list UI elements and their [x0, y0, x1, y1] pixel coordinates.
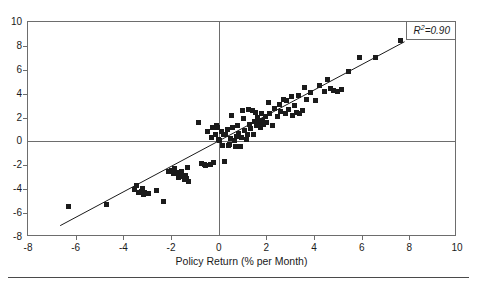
plot-area: -8-6-4-20246810 -8-6-4-20246810 R2=0.90 — [27, 21, 456, 236]
x-axis-tick — [266, 235, 267, 240]
scatter-point — [300, 108, 305, 113]
x-axis-tick-label: -8 — [24, 243, 33, 253]
scatter-point — [220, 143, 225, 148]
y-axis-tick-label: -2 — [13, 160, 22, 170]
scatter-point — [154, 188, 159, 193]
scatter-point — [346, 69, 351, 74]
scatter-point — [225, 127, 230, 132]
y-axis-tick-label: -6 — [13, 208, 22, 218]
x-axis-tick-label: -4 — [119, 243, 128, 253]
y-axis-tick — [23, 118, 28, 119]
scatter-point — [235, 123, 240, 128]
x-axis-tick-label: -6 — [71, 243, 80, 253]
scatter-point — [292, 103, 297, 108]
scatter-point — [229, 113, 234, 118]
y-axis-tick-label: -4 — [13, 184, 22, 194]
y-axis-tick — [23, 46, 28, 47]
scatter-point — [264, 120, 269, 125]
x-axis-title: Policy Return (% per Month) — [27, 255, 456, 267]
scatter-point — [244, 137, 249, 142]
scatter-point — [161, 199, 166, 204]
y-axis-tick — [23, 213, 28, 214]
x-axis-tick-label: 6 — [359, 243, 365, 253]
scatter-point — [289, 94, 294, 99]
y-axis-tick-label: 8 — [16, 41, 22, 51]
scatter-point — [267, 111, 272, 116]
scatter-point — [302, 85, 307, 90]
x-axis-tick — [409, 235, 410, 240]
y-axis-tick-label: 10 — [11, 17, 22, 27]
y-axis-tick-label: 2 — [16, 113, 22, 123]
scatter-point — [313, 98, 318, 103]
figure-root: -8-6-4-20246810 -8-6-4-20246810 R2=0.90 … — [0, 0, 477, 285]
x-axis-tick-label: -2 — [167, 243, 176, 253]
scatter-point — [196, 120, 201, 125]
scatter-point — [253, 110, 258, 115]
x-axis-tick — [362, 235, 363, 240]
scatter-point — [373, 55, 378, 60]
x-axis-tick — [171, 235, 172, 240]
scatter-point — [270, 123, 275, 128]
x-axis-tick — [76, 235, 77, 240]
scatter-point — [251, 132, 256, 137]
scatter-point — [317, 83, 322, 88]
scatter-point — [211, 160, 216, 165]
y-axis-tick — [23, 189, 28, 190]
scatter-point — [304, 97, 309, 102]
x-axis-tick-label: 8 — [407, 243, 413, 253]
scatter-point — [325, 77, 330, 82]
scatter-point — [186, 179, 191, 184]
clipped-caption — [0, 0, 477, 10]
scatter-point — [322, 89, 327, 94]
y-axis-tick — [23, 94, 28, 95]
scatter-point — [245, 132, 250, 137]
scatter-point — [104, 202, 109, 207]
scatter-point — [241, 116, 246, 121]
scatter-point — [222, 159, 227, 164]
y-axis-tick-label: 0 — [16, 136, 22, 146]
y-axis-tick — [23, 70, 28, 71]
scatter-point — [248, 126, 253, 131]
x-axis-tick-label: 10 — [451, 243, 462, 253]
y-axis-tick-label: 4 — [16, 89, 22, 99]
scatter-point — [308, 90, 313, 95]
y-axis-tick — [23, 165, 28, 166]
r-squared-annotation: R2=0.90 — [406, 22, 455, 40]
footer-divider — [8, 277, 469, 278]
x-axis-tick-label: 0 — [216, 243, 222, 253]
x-axis-tick — [123, 235, 124, 240]
y-axis-tick-label: 6 — [16, 65, 22, 75]
x-axis-tick — [314, 235, 315, 240]
scatter-point — [277, 102, 282, 107]
scatter-point — [266, 100, 271, 105]
scatter-point — [66, 204, 71, 209]
scatter-point — [398, 38, 403, 43]
y-axis-tick-label: -8 — [13, 232, 22, 242]
x-axis-tick-label: 4 — [311, 243, 317, 253]
scatter-point — [275, 114, 280, 119]
x-axis-tick-label: 2 — [264, 243, 270, 253]
r-symbol: R — [414, 25, 421, 36]
scatter-point — [357, 55, 362, 60]
scatter-point — [217, 138, 222, 143]
r-squared-number: 0.90 — [431, 25, 450, 36]
scatter-point — [339, 87, 344, 92]
scatter-point — [240, 108, 245, 113]
scatter-point — [286, 107, 291, 112]
scatter-point — [134, 183, 139, 188]
scatter-point — [185, 165, 190, 170]
scatter-point — [238, 144, 243, 149]
scatter-point — [296, 93, 301, 98]
scatter-point — [146, 191, 151, 196]
